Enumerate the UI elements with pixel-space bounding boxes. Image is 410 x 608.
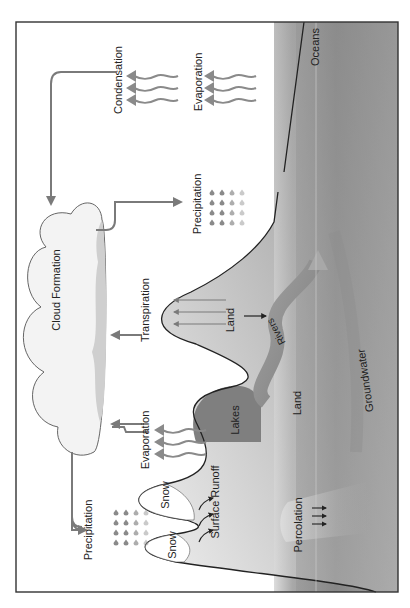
condensation-label: Condensation: [112, 46, 124, 114]
transpiration-label: Transpiration: [139, 278, 151, 342]
percolation-label: Percolation: [292, 497, 304, 552]
evaporation-ocean-label: Evaporation: [192, 53, 204, 112]
lakes-label: Lakes: [229, 405, 241, 435]
land-ground-label: Land: [291, 391, 303, 415]
oceans-label: Oceans: [309, 28, 321, 66]
surface-runoff-label: Surface Runoff: [209, 464, 221, 538]
precipitation-land-label: Precipitation: [82, 500, 94, 561]
diagram-canvas: Cloud Formation Condensation Evaporation…: [16, 22, 398, 592]
evaporation-lake-label: Evaporation: [139, 411, 151, 470]
evaporation-lake-arrowheads: [154, 424, 164, 460]
snow-label-1: Snow: [159, 481, 171, 509]
land-hill-label: Land: [224, 308, 236, 332]
condensation-arrowheads: [126, 70, 136, 106]
snow-label-2: Snow: [166, 531, 178, 559]
precipitation-ocean-label: Precipitation: [191, 174, 203, 235]
water-cycle-diagram: Cloud Formation Condensation Evaporation…: [0, 0, 410, 608]
evaporation-ocean-arrowheads: [204, 70, 214, 106]
cloud-formation-label: Cloud Formation: [50, 249, 62, 330]
